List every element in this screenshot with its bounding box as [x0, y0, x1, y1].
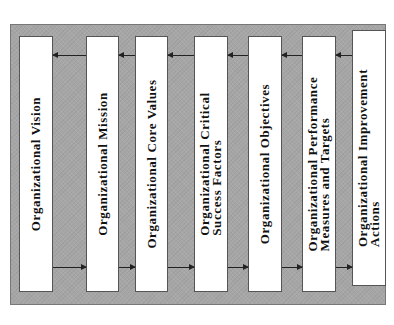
forward-arrow-icon: [53, 267, 86, 268]
box-label: Organizational Objectives: [259, 84, 271, 245]
feedback-arrow-icon: [336, 55, 352, 56]
box-label: Organizational Critical Success Factors: [199, 92, 223, 235]
box-objectives: Organizational Objectives: [248, 36, 282, 292]
box-improvement-actions: Organizational Improvement Actions: [352, 30, 386, 286]
feedback-arrow-icon: [119, 55, 135, 56]
box-label: Organizational Mission: [97, 92, 109, 236]
box-core-values: Organizational Core Values: [135, 36, 168, 292]
forward-arrow-icon: [336, 267, 352, 268]
box-label: Organizational Improvement Actions: [357, 69, 381, 247]
forward-arrow-icon: [228, 267, 248, 268]
feedback-arrow-icon: [282, 55, 302, 56]
forward-arrow-icon: [282, 267, 302, 268]
box-label: Organizational Vision: [30, 97, 42, 231]
box-performance-measures: Organizational Performance Measures and …: [302, 36, 336, 292]
box-vision: Organizational Vision: [19, 36, 53, 292]
box-label: Organizational Core Values: [146, 79, 158, 248]
forward-arrow-icon: [168, 267, 194, 268]
box-mission: Organizational Mission: [86, 36, 119, 292]
forward-arrow-icon: [119, 267, 135, 268]
feedback-arrow-icon: [228, 55, 248, 56]
feedback-arrow-icon: [168, 55, 194, 56]
box-critical-success-factors: Organizational Critical Success Factors: [194, 36, 228, 292]
box-label: Organizational Performance Measures and …: [307, 77, 331, 252]
feedback-arrow-icon: [53, 55, 86, 56]
